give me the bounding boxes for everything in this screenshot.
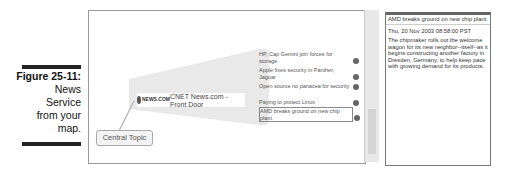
feed-title: CNET News.com - Front Door xyxy=(170,93,245,108)
scrollbar-thumb[interactable] xyxy=(368,109,376,154)
caption-line: map. xyxy=(10,122,81,135)
subtopic[interactable]: Paying to protect Linux xyxy=(259,99,351,106)
link-icon[interactable] xyxy=(354,115,360,121)
feed-topic[interactable]: NEWS.COM CNET News.com - Front Door xyxy=(137,93,245,107)
news-detail-pane: AMD breaks ground on new chip plant Thu,… xyxy=(385,12,491,166)
article-title: AMD breaks ground on new chip plant xyxy=(386,15,490,25)
link-icon[interactable] xyxy=(353,58,359,64)
subtopic-label: Open source no panacea for security xyxy=(259,83,349,89)
figure-caption: Figure 25-11: News Service from your map… xyxy=(10,70,81,135)
subtopic[interactable]: Open source no panacea for security xyxy=(259,83,351,90)
subtopic[interactable]: Apple fixes security in Panther, Jaguar xyxy=(259,67,351,80)
subtopic-label: Apple fixes security in Panther, Jaguar xyxy=(259,67,334,80)
link-icon[interactable] xyxy=(353,84,359,90)
caption-line: Service xyxy=(10,96,81,109)
article-date: Thu, 20 Nov 2003 08:58:00 PST xyxy=(386,25,490,34)
caption-line: from your xyxy=(10,109,81,122)
logo-icon xyxy=(137,96,141,104)
subtopic-label: Paying to protect Linux xyxy=(259,99,315,105)
mind-map-canvas[interactable]: Central Topic NEWS.COM CNET News.com - F… xyxy=(88,10,366,164)
subtopic-label: AMD breaks ground on new chip plant xyxy=(260,108,340,121)
subtopic-label: HP, Cap Gemini join forces for storage xyxy=(259,51,333,64)
logo-text: NEWS.COM xyxy=(142,96,170,104)
vertical-scrollbar[interactable] xyxy=(364,10,379,162)
subtopic-selected[interactable]: AMD breaks ground on new chip plant xyxy=(259,107,353,122)
central-topic[interactable]: Central Topic xyxy=(96,130,153,146)
caption-rule-top xyxy=(22,65,81,69)
subtopic[interactable]: HP, Cap Gemini join forces for storage xyxy=(259,51,351,64)
caption-rule-bottom xyxy=(22,142,81,146)
article-body: The chipmaker rolls out the welcome wago… xyxy=(386,34,490,73)
link-icon[interactable] xyxy=(353,74,359,80)
link-icon[interactable] xyxy=(353,100,359,106)
figure-number: Figure 25-11: xyxy=(10,70,81,83)
caption-line: News xyxy=(10,83,81,96)
news-logo: NEWS.COM xyxy=(137,95,170,104)
